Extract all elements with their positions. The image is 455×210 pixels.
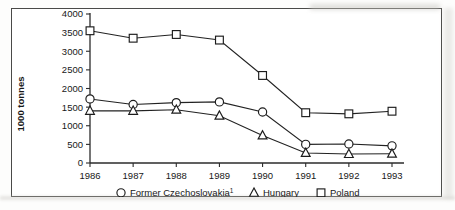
data-point-square-1992 [345, 110, 353, 118]
legend-marker-circle [117, 189, 125, 197]
chart-legend: Former Czechoslovakia1HungaryPoland [117, 187, 360, 197]
y-tick-label: 3000 [62, 46, 83, 57]
scan-smudge-right [444, 8, 453, 198]
data-point-square-1993 [388, 107, 396, 115]
x-tick-label: 1988 [166, 170, 187, 181]
y-tick-label: 1500 [62, 102, 83, 113]
y-tick-label: 1000 [62, 120, 83, 131]
data-point-triangle-1993 [388, 149, 397, 157]
y-tick-label: 0 [78, 157, 83, 168]
y-tick-label: 500 [67, 139, 83, 150]
y-axis-tick-labels: 05001000150020002500300035004000 [62, 8, 83, 168]
x-tick-label: 1987 [123, 170, 144, 181]
y-tick-label: 2500 [62, 64, 83, 75]
x-tick-label: 1989 [209, 170, 230, 181]
series-lines-group [90, 31, 392, 154]
data-point-square-1988 [172, 31, 180, 39]
data-point-square-1986 [86, 27, 94, 35]
data-point-square-1991 [302, 109, 310, 117]
y-tick-label: 4000 [62, 8, 83, 19]
legend-marker-triangle [250, 188, 259, 196]
legend-label-circle: Former Czechoslovakia1 [130, 187, 234, 197]
legend-label-square: Poland [330, 187, 360, 197]
x-tick-label: 1990 [252, 170, 273, 181]
legend-label-triangle: Hungary [263, 187, 299, 197]
data-point-circle-1990 [258, 108, 266, 116]
y-tick-label: 3500 [62, 27, 83, 38]
data-point-square-1990 [259, 72, 267, 80]
data-point-triangle-1990 [258, 131, 267, 139]
y-axis-title: 1000 tonnes [15, 77, 26, 132]
legend-footnote-marker: 1 [230, 187, 234, 194]
data-point-square-1987 [129, 34, 137, 42]
legend-marker-square [317, 189, 325, 197]
x-axis-tick-labels: 19861987198819891990199119921993 [79, 170, 402, 181]
x-tick-label: 1992 [338, 170, 359, 181]
y-tick-label: 2000 [62, 83, 83, 94]
data-point-triangle-1988 [172, 105, 181, 113]
series-markers-group [86, 27, 397, 158]
x-tick-label: 1991 [295, 170, 316, 181]
data-point-circle-1992 [345, 140, 353, 148]
chart-figure: 1000 tonnes 0500100015002000250030003500… [0, 0, 455, 210]
data-point-triangle-1992 [344, 149, 353, 157]
line-chart: 1000 tonnes 0500100015002000250030003500… [11, 8, 442, 197]
x-tick-label: 1993 [381, 170, 402, 181]
x-tick-label: 1986 [79, 170, 100, 181]
data-point-square-1989 [216, 36, 224, 44]
data-point-circle-1986 [86, 95, 94, 103]
data-point-circle-1989 [215, 98, 223, 106]
